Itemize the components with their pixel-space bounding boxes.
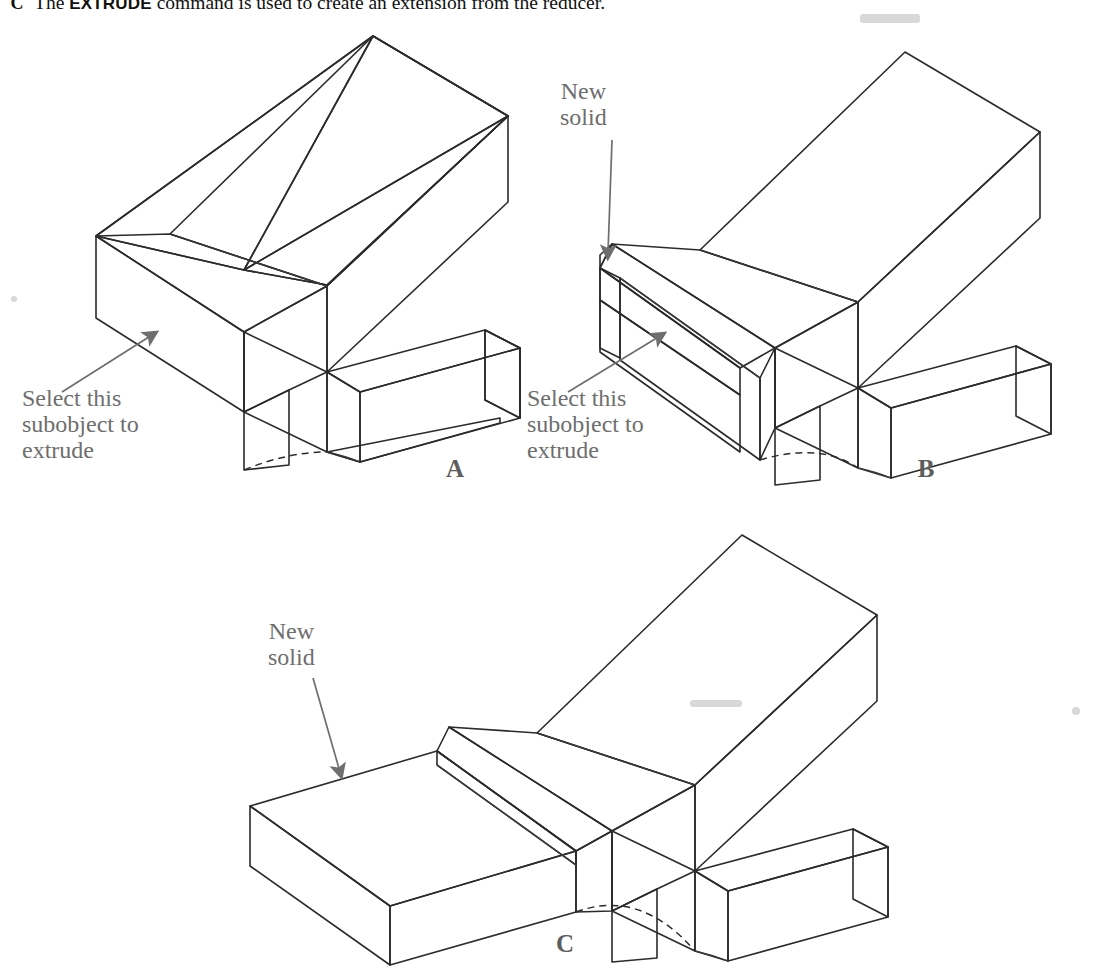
panel-a-solid — [96, 36, 520, 470]
callout-new-solid-b: New solid — [560, 78, 607, 130]
panel-c-callout-arrow — [313, 678, 340, 772]
figure-root: CThe EXTRUDE command is used to create a… — [0, 0, 1106, 980]
isometric-artwork — [0, 0, 1106, 980]
callout-new-solid-c: New solid — [268, 618, 315, 670]
panel-b-solid — [600, 52, 1051, 485]
panel-letter-b: B — [906, 455, 946, 483]
panel-letter-c: C — [545, 930, 585, 958]
scan-artifacts — [11, 14, 1080, 715]
callout-select-subobject-b: Select this subobject to extrude — [527, 385, 644, 463]
panel-letter-a: A — [435, 455, 475, 483]
callout-select-subobject-a: Select this subobject to extrude — [22, 385, 139, 463]
panel-c-solid — [250, 535, 888, 965]
panel-a-callout-arrow — [62, 335, 152, 392]
